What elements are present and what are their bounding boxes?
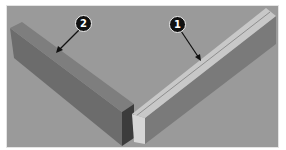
callout-1-badge: 1 (169, 16, 186, 33)
arrow-1-head-icon (195, 54, 201, 61)
right-board-groove (136, 12, 270, 116)
callout-2-badge: 2 (75, 15, 92, 32)
right-board-end-face (132, 114, 145, 144)
callout-arrows (56, 30, 201, 61)
left-board (10, 22, 134, 146)
arrow-1-line (181, 31, 199, 58)
right-board-side-face (145, 16, 276, 144)
arrow-2-line (59, 30, 79, 50)
board-joint-illustration (0, 0, 286, 150)
right-board (132, 8, 276, 144)
